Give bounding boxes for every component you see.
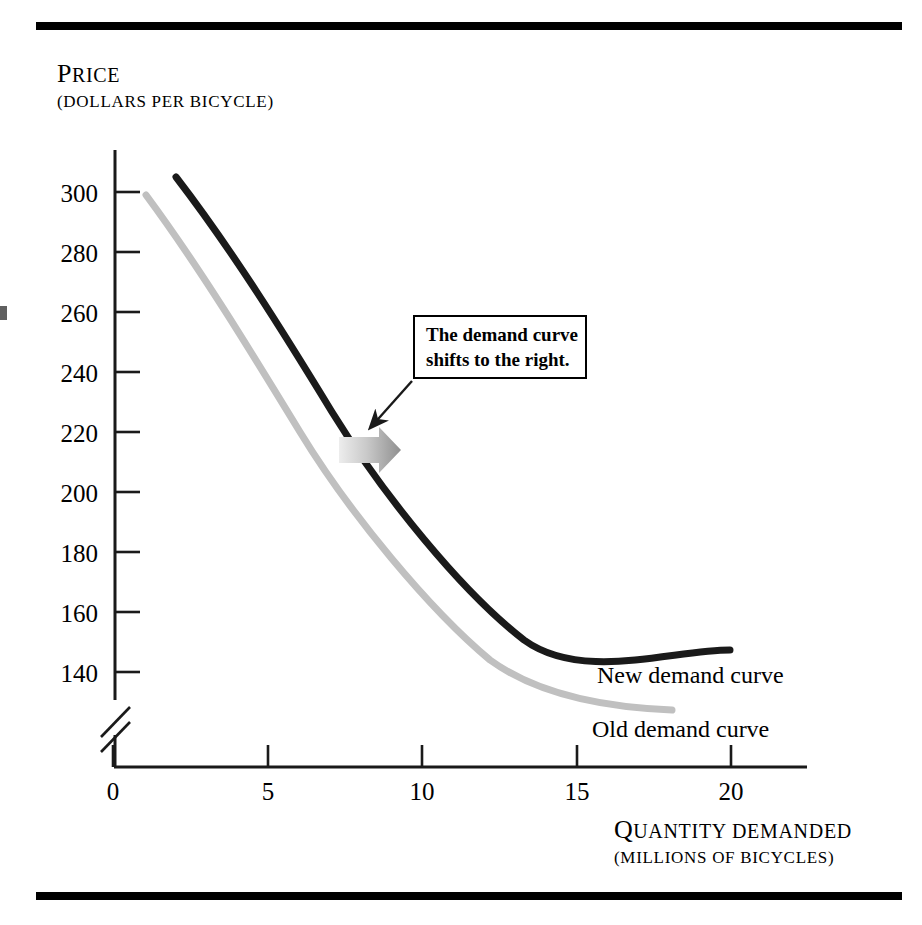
x-axis-title-line1: QUANTITY DEMANDED — [614, 812, 852, 847]
x-tick-label: 0 — [83, 778, 143, 806]
x-tick-label: 20 — [701, 778, 761, 806]
y-tick-label: 260 — [18, 300, 98, 328]
x-axis-ticks — [113, 745, 731, 767]
new-demand-curve — [176, 177, 730, 662]
y-tick-label: 140 — [18, 660, 98, 688]
old-demand-curve-label: Old demand curve — [592, 716, 769, 743]
x-axis-title-l1-first: QUANTITY DEMANDED — [614, 819, 852, 843]
x-axis-title: QUANTITY DEMANDED (Millions of bicycles) — [614, 812, 852, 870]
y-axis-title: PRICE (Dollars per bicycle) — [57, 56, 274, 114]
demand-curve-shift-figure: 300 280 260 240 220 200 180 160 140 0 5 … — [0, 0, 922, 925]
y-axis-title-l1-first: PRICE — [57, 63, 120, 87]
x-tick-label: 15 — [547, 778, 607, 806]
callout-line-2: shifts to the right. — [426, 347, 585, 372]
y-tick-label: 160 — [18, 600, 98, 628]
x-tick-label: 10 — [392, 778, 452, 806]
callout-line-1: The demand curve — [426, 322, 585, 347]
y-tick-label: 180 — [18, 540, 98, 568]
callout-leader-line — [371, 381, 412, 427]
x-tick-label: 5 — [238, 778, 298, 806]
y-axis-title-line1: PRICE — [57, 56, 274, 91]
y-tick-label: 280 — [18, 240, 98, 268]
y-axis-ticks — [115, 192, 140, 672]
y-tick-label: 220 — [18, 420, 98, 448]
y-tick-label: 240 — [18, 360, 98, 388]
y-tick-label: 300 — [18, 180, 98, 208]
new-demand-curve-label: New demand curve — [597, 662, 784, 689]
old-demand-curve — [146, 195, 672, 710]
y-tick-label: 200 — [18, 480, 98, 508]
callout-textbox: The demand curve shifts to the right. — [413, 315, 587, 379]
x-axis-title-line2: (Millions of bicycles) — [614, 847, 852, 870]
y-axis-title-line2: (Dollars per bicycle) — [57, 91, 274, 114]
